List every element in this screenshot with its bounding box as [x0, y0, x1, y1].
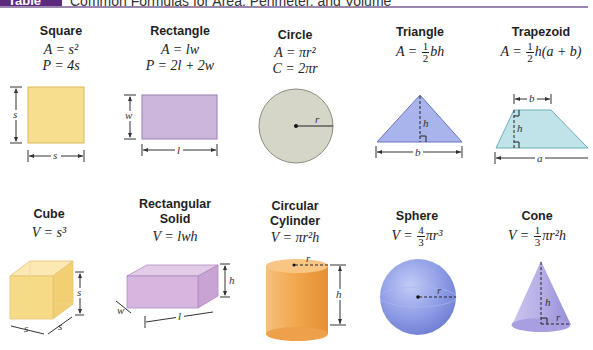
cone-height-label: h — [545, 296, 551, 308]
cone-radius-label: r — [556, 311, 561, 323]
